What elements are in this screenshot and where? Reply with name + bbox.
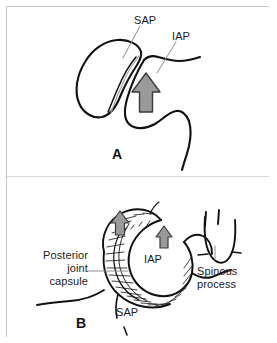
spinous-tick-left-b [198,254,208,255]
label-posterior: Posterior [0,249,88,262]
upper-stipple-b [150,202,159,214]
label-sap-panel-b: SAP [116,306,138,319]
label-spinous: Spinous [197,265,237,278]
upward-force-arrow-right-b [156,226,172,248]
spinous-stroke-left-b [205,212,206,226]
panel-b-artwork [0,0,277,343]
capsule-tick-2-b [139,222,142,226]
label-process: process [197,278,236,291]
capsule-tick-1-b [131,225,134,229]
spinous-stroke-right-b [218,210,219,224]
label-capsule: capsule [0,275,88,288]
label-joint: joint [0,262,88,275]
sap-tail-b [124,327,127,335]
panel-letter-a: A [112,146,122,162]
figure-container: SAP IAP A Posterior joint capsule IAP Sp… [0,0,277,343]
panel-letter-b: B [76,315,86,331]
spinous-process-outline-b [205,217,236,263]
label-iap-panel-b: IAP [144,253,162,266]
label-iap-panel-a: IAP [172,30,190,43]
upward-force-arrow-left-b [111,211,129,235]
spinous-tick-right-b [232,252,241,253]
sap-base-left-b [37,290,104,305]
label-sap-panel-a: SAP [134,14,156,27]
